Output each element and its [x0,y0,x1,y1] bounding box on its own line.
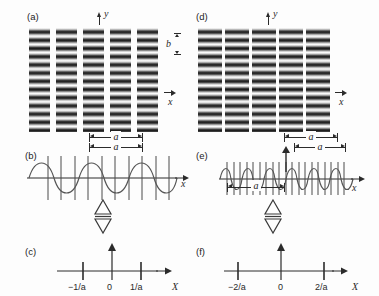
tick-label-f-minus: −2/a [228,282,246,292]
x-axis-label-d: x [339,96,343,107]
reciprocal-lattice-f [222,240,367,284]
grating-column [279,28,303,132]
tick-label-f-plus: 2/a [315,282,328,292]
fourier-transform-symbol [262,198,284,238]
x-axis-label-a: x [168,96,172,107]
period-label-b: a [111,141,121,152]
grating-column [306,28,330,132]
grating-column [198,28,222,132]
center-order-arrow-e [281,146,291,172]
diffraction-figure: (a) y b x a (d) y x a [0,0,379,296]
x-axis-label-b: x [181,178,185,189]
transmission-wave-b [25,152,190,204]
period-arrow-e-right: a [294,143,346,152]
grating-column [137,28,158,132]
vertical-period-label-a: b [166,38,171,49]
tick-label-c-plus: 1/a [130,282,143,292]
panel-tag-f: (f) [196,246,205,257]
grating-column [56,28,77,132]
period-arrow-b: a [89,143,143,152]
reciprocal-lattice-c [55,240,190,284]
axis-label-c: X [172,281,178,292]
tick-label-c-minus: −1/a [68,282,86,292]
tick-label-c-zero: 0 [107,282,112,292]
axis-label-f: X [352,281,358,292]
period-label-e-left: a [251,180,261,191]
y-axis-label-a: y [104,8,108,19]
grating-column [225,28,249,132]
period-label-e-right: a [315,141,325,152]
grating-column [110,28,131,132]
grating-d [198,28,332,132]
grating-column [252,28,276,132]
panel-tag-e: (e) [196,150,208,161]
y-axis-label-d: y [273,8,277,19]
panel-tag-d: (d) [196,11,208,22]
fourier-transform-symbol [92,198,114,238]
panel-tag-c: (c) [25,246,36,257]
tick-label-f-zero: 0 [278,282,283,292]
vertical-period-arrow-a [174,33,181,55]
transmission-wave-e [217,155,367,201]
grating-column [83,28,104,132]
panel-tag-a: (a) [27,11,39,22]
period-arrow-e-left: a [227,183,285,192]
x-axis-label-e: x [352,182,356,193]
grating-column [29,28,50,132]
grating-a [29,28,162,132]
